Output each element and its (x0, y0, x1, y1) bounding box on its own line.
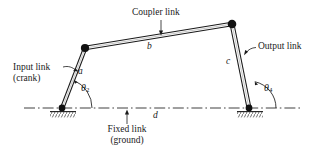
input-link-label-line1: Input link (13, 62, 50, 72)
input-link-bar (60, 49, 87, 109)
joint-top-right (228, 20, 237, 29)
joint-top-left (81, 44, 89, 52)
joint-pivot-right (246, 105, 253, 112)
fixed-link-leader (125, 109, 129, 124)
theta4-label: θ4 (264, 83, 272, 94)
four-bar-linkage-figure: Coupler link Input link (crank) Output l… (0, 0, 315, 155)
theta4-subscript: 4 (269, 86, 272, 93)
theta2-label: θ2 (81, 83, 89, 94)
theta2-subscript: 2 (86, 86, 89, 93)
link-a-label: a (78, 66, 83, 76)
output-link-leader (244, 48, 256, 56)
coupler-link-label: Coupler link (132, 7, 180, 17)
link-c-label: c (226, 56, 230, 66)
coupler-link-bar (85, 22, 233, 50)
link-d-label: d (153, 110, 158, 120)
fixed-link-label-line1: Fixed link (94, 124, 160, 134)
output-link-label: Output link (258, 41, 302, 51)
joint-pivot-left (59, 105, 66, 112)
fixed-link-label-line2: (ground) (94, 135, 160, 145)
ground-support-right (237, 112, 263, 118)
link-b-label: b (147, 41, 152, 51)
ground-support-left (50, 112, 76, 118)
input-link-label-line2: (crank) (13, 73, 40, 83)
output-link-bar (230, 24, 251, 109)
